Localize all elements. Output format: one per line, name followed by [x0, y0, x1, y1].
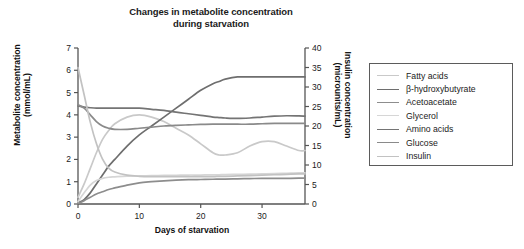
y-axis-left-tick-label: 5: [66, 88, 71, 98]
series-line: [78, 68, 305, 177]
y-axis-right-tick-label: 5: [312, 180, 317, 190]
x-axis-tick-label: 10: [135, 211, 145, 221]
chart-legend: Fatty acidsβ-hydroxybutyrateAcetoacetate…: [369, 63, 513, 166]
y-axis-left-tick-label: 3: [66, 132, 71, 142]
y-axis-left-tick-label: 2: [66, 154, 71, 164]
legend-item-label: Fatty acids: [406, 71, 448, 81]
y-axis-right-tick-label: 25: [312, 102, 322, 112]
legend-swatch-line-icon: [377, 75, 399, 76]
y-axis-right-tick-label: 10: [312, 160, 322, 170]
y-axis-right-tick-label: 35: [312, 63, 322, 73]
series-line: [78, 178, 305, 203]
series-line: [78, 106, 305, 118]
legend-swatch-line-icon: [377, 102, 399, 103]
legend-item-label: Insulin: [406, 151, 431, 161]
y-axis-right-tick-label: 0: [312, 199, 317, 209]
x-axis-tick-label: 0: [76, 211, 81, 221]
y-axis-right-tick-label: 30: [312, 82, 322, 92]
y-axis-right-tick-label: 40: [312, 43, 322, 53]
series-line: [78, 77, 305, 203]
legend-swatch-line-icon: [377, 115, 399, 116]
legend-swatch-line-icon: [377, 142, 399, 143]
y-axis-left-title: Metabolite concentration (mmol/mL): [12, 35, 32, 155]
x-axis-title: Days of starvation: [78, 225, 306, 235]
y-axis-right-title-line-1: Insulin concentration: [343, 35, 353, 155]
legend-item[interactable]: Fatty acids: [377, 69, 506, 82]
legend-swatch-line-icon: [377, 89, 399, 90]
legend-item-label: Acetoacetate: [406, 97, 457, 107]
legend-item-label: Glycerol: [406, 111, 438, 121]
y-axis-left-tick-label: 4: [66, 110, 71, 120]
legend-swatch-line-icon: [377, 129, 399, 130]
y-axis-left-title-line-1: Metabolite concentration: [12, 35, 22, 155]
legend-item-label: Glucose: [406, 138, 438, 148]
y-axis-right-tick-label: 15: [312, 141, 322, 151]
y-axis-right-title: Insulin concentration (microunits/mL): [333, 35, 353, 155]
y-axis-right-title-line-2: (microunits/mL): [333, 35, 343, 155]
y-axis-left-tick-label: 7: [66, 43, 71, 53]
legend-item[interactable]: Insulin: [377, 149, 506, 162]
chart-figure: Changes in metabolite concentration duri…: [0, 0, 524, 249]
y-axis-left-tick-label: 1: [66, 177, 71, 187]
x-axis-tick-label: 20: [196, 211, 206, 221]
x-axis-tick-label: 30: [257, 211, 267, 221]
y-axis-left-title-line-2: (mmol/mL): [22, 35, 32, 155]
y-axis-left-tick-label: 0: [66, 199, 71, 209]
legend-item[interactable]: Amino acids: [377, 123, 506, 136]
legend-item[interactable]: Glucose: [377, 136, 506, 149]
legend-item-label: Amino acids: [406, 124, 453, 134]
legend-item[interactable]: Acetoacetate: [377, 96, 506, 109]
legend-swatch-line-icon: [377, 156, 399, 157]
legend-item[interactable]: Glycerol: [377, 109, 506, 122]
y-axis-right-tick-label: 20: [312, 121, 322, 131]
legend-item-label: β-hydroxybutyrate: [406, 84, 476, 94]
y-axis-left-tick-label: 6: [66, 65, 71, 75]
legend-item[interactable]: β-hydroxybutyrate: [377, 82, 506, 95]
series-line: [78, 115, 305, 197]
